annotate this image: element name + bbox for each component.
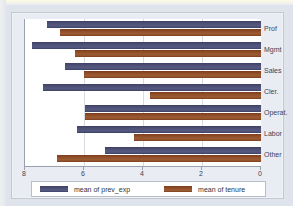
- plot-inner: [25, 19, 261, 166]
- x-tick-label-2: 2: [199, 170, 203, 178]
- legend-label-prev-exp: mean of prev_exp: [74, 186, 130, 193]
- bar-tenure-cler: [150, 92, 261, 99]
- category-label-sales: Sales: [264, 67, 282, 75]
- bar-prev-exp-sales: [65, 63, 261, 70]
- legend-item-prev-exp: mean of prev_exp: [32, 182, 130, 196]
- category-label-other: Other: [264, 151, 282, 159]
- bar-prev-exp-operat: [85, 105, 261, 112]
- bar-prev-exp-prof: [47, 21, 261, 28]
- x-tick-label-8: 8: [22, 170, 26, 178]
- bar-tenure-other: [57, 155, 261, 162]
- x-tick-label-4: 4: [140, 170, 144, 178]
- plot-area: [24, 19, 261, 166]
- bar-prev-exp-labor: [77, 126, 261, 133]
- x-tick-label-6: 6: [81, 170, 85, 178]
- bar-prev-exp-cler: [43, 84, 261, 91]
- bar-prev-exp-other: [105, 147, 261, 154]
- bar-prev-exp-mgmt: [32, 42, 261, 49]
- x-tick-label-0: 0: [258, 170, 262, 178]
- screenshot-root: ProfMgmtSalesCler.Operat.LaborOther 8642…: [0, 0, 293, 206]
- bar-tenure-prof: [60, 29, 261, 36]
- category-axis-labels: ProfMgmtSalesCler.Operat.LaborOther: [262, 19, 293, 166]
- category-label-mgmt: Mgmt: [264, 46, 282, 54]
- chart-frame: ProfMgmtSalesCler.Operat.LaborOther 8642…: [11, 12, 284, 199]
- bar-tenure-mgmt: [75, 50, 261, 57]
- bar-tenure-sales: [84, 71, 261, 78]
- bar-tenure-operat: [85, 113, 261, 120]
- chart-legend: mean of prev_exp mean of tenure: [31, 181, 266, 197]
- category-label-labor: Labor: [264, 130, 282, 138]
- legend-swatch-prev-exp: [40, 186, 68, 192]
- category-label-cler: Cler.: [264, 88, 278, 96]
- legend-swatch-tenure: [164, 186, 192, 192]
- category-label-prof: Prof: [264, 25, 277, 33]
- bar-tenure-labor: [134, 134, 261, 141]
- legend-label-tenure: mean of tenure: [198, 186, 245, 193]
- legend-item-tenure: mean of tenure: [156, 182, 245, 196]
- scan-edge-left: [0, 0, 6, 206]
- category-label-operat: Operat.: [264, 109, 287, 117]
- scan-edge-top: [0, 0, 293, 5]
